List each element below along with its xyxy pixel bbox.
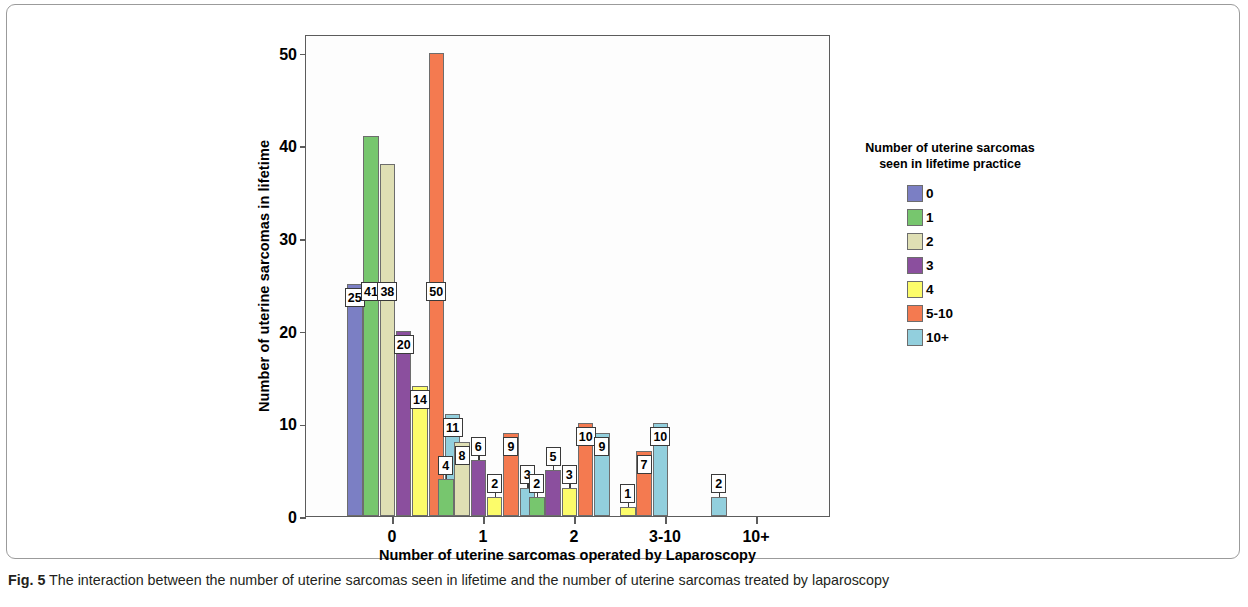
bar	[620, 507, 636, 516]
bar	[562, 488, 578, 516]
bar-value-label: 9	[594, 437, 609, 456]
y-axis-title: Number of uterine sarcomas in lifetime	[253, 35, 275, 517]
bar	[487, 497, 503, 516]
legend-label: 5-10	[926, 307, 953, 321]
legend-swatch	[907, 233, 923, 250]
plot-area: 01020304050 2541382014501148629325310917…	[305, 35, 830, 517]
legend-item: 2	[907, 230, 1060, 252]
x-tick-label: 0	[388, 528, 397, 546]
bar-value-label: 2	[529, 474, 544, 493]
label-leader-line	[495, 493, 496, 497]
x-tick-mark	[392, 516, 394, 524]
legend-item: 1	[907, 206, 1060, 228]
bar	[438, 479, 454, 516]
legend-item: 0	[907, 182, 1060, 204]
legend-label: 4	[926, 283, 934, 297]
bar-value-label: 14	[410, 390, 430, 409]
legend-swatch	[907, 185, 923, 202]
legend-item: 5-10	[907, 302, 1060, 324]
bar-value-label: 10	[650, 427, 670, 446]
legend-item: 4	[907, 278, 1060, 300]
legend-title-line-2: seen in lifetime practice	[850, 157, 1050, 173]
label-leader-line	[537, 493, 538, 497]
bar	[396, 331, 412, 516]
bar-value-label: 11	[443, 418, 463, 437]
legend-label: 2	[926, 235, 934, 249]
bar-value-label: 2	[711, 474, 726, 493]
label-leader-line	[569, 484, 570, 488]
y-tick-label: 30	[279, 231, 297, 249]
label-leader-line	[628, 503, 629, 507]
bar	[529, 497, 545, 516]
x-tick-label: 3-10	[649, 528, 681, 546]
y-tick-label: 0	[288, 509, 297, 527]
legend-items: 012345-1010+	[850, 182, 1060, 348]
legend-label: 10+	[926, 331, 949, 345]
figure-caption-label: Fig. 5	[8, 572, 45, 588]
bar-value-label: 5	[546, 447, 561, 466]
legend-title: Number of uterine sarcomas seen in lifet…	[850, 141, 1050, 172]
bar	[347, 284, 363, 516]
y-tick-label: 50	[279, 46, 297, 64]
x-tick-label: 10+	[742, 528, 769, 546]
x-tick-label: 1	[479, 528, 488, 546]
y-tick-mark	[300, 517, 306, 519]
legend-swatch	[907, 209, 923, 226]
bar-value-label: 4	[438, 456, 453, 475]
legend-item: 10+	[907, 326, 1060, 348]
bar-value-label: 8	[455, 446, 470, 465]
legend-label: 3	[926, 259, 934, 273]
bar-value-label: 38	[377, 282, 397, 301]
bar-value-label: 1	[620, 484, 635, 503]
bar	[363, 136, 379, 516]
bar	[545, 470, 561, 516]
label-leader-line	[553, 466, 554, 470]
x-tick-mark	[483, 516, 485, 524]
bar-value-label: 9	[503, 437, 518, 456]
x-tick-label: 2	[570, 528, 579, 546]
x-tick-mark	[756, 516, 758, 524]
x-tick-mark	[574, 516, 576, 524]
figure-caption: Fig. 5 The interaction between the numbe…	[8, 572, 1238, 590]
label-leader-line	[478, 456, 479, 460]
bar	[711, 497, 727, 516]
bar-value-label: 50	[426, 282, 446, 301]
legend-label: 0	[926, 187, 934, 201]
y-tick-label: 40	[279, 138, 297, 156]
legend-swatch	[907, 305, 923, 322]
chart-legend: Number of uterine sarcomas seen in lifet…	[850, 141, 1060, 350]
legend-swatch	[907, 281, 923, 298]
legend-title-line-1: Number of uterine sarcomas	[850, 141, 1050, 157]
x-axis-title: Number of uterine sarcomas operated by L…	[305, 547, 830, 563]
bar-value-label: 3	[562, 465, 577, 484]
legend-item: 3	[907, 254, 1060, 276]
y-tick-label: 10	[279, 416, 297, 434]
x-tick-mark	[665, 516, 667, 524]
legend-swatch	[907, 329, 923, 346]
legend-swatch	[907, 257, 923, 274]
label-leader-line	[719, 493, 720, 497]
y-tick-label: 20	[279, 324, 297, 342]
bar-value-label: 2	[487, 474, 502, 493]
figure-caption-text: The interaction between the number of ut…	[45, 572, 889, 588]
bar-value-label: 10	[576, 427, 596, 446]
bar	[471, 460, 487, 516]
bar-value-label: 6	[471, 437, 486, 456]
bar-value-label: 7	[637, 455, 652, 474]
label-leader-line	[446, 475, 447, 479]
y-axis-title-text: Number of uterine sarcomas in lifetime	[256, 140, 272, 412]
figure-frame: Number of uterine sarcomas in lifetime 0…	[6, 4, 1240, 559]
bars-layer: 2541382014501148629325310917102	[306, 36, 829, 516]
legend-label: 1	[926, 211, 934, 225]
bar-value-label: 20	[394, 335, 414, 354]
